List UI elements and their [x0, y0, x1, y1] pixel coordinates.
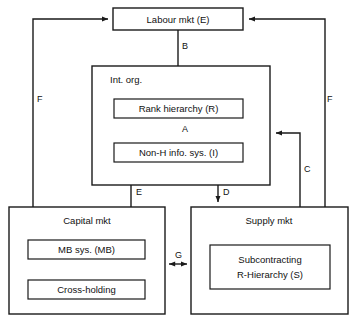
edge-label-f-right: F [327, 94, 333, 104]
subcontracting-label-line2: R-Hierarchy (S) [237, 269, 303, 280]
int-org-label: Int. org. [110, 74, 142, 85]
node-rank-hierarchy[interactable]: Rank hierarchy (R) [114, 99, 243, 118]
node-cross-holding[interactable]: Cross-holding [28, 280, 145, 299]
node-labour-mkt[interactable]: Labour mkt (E) [113, 8, 243, 30]
rank-hierarchy-label: Rank hierarchy (R) [139, 103, 219, 114]
edge-label-b: B [182, 41, 188, 51]
node-subcontracting[interactable]: Subcontracting R-Hierarchy (S) [210, 245, 330, 289]
edge-c [276, 133, 300, 207]
non-h-info-sys-label: Non-H info. sys. (I) [139, 147, 218, 158]
labour-mkt-label: Labour mkt (E) [147, 14, 210, 25]
diagram-canvas: Labour mkt (E) Int. org. Rank hierarchy … [0, 0, 358, 326]
subcontracting-box[interactable] [210, 245, 330, 289]
node-non-h-info-sys[interactable]: Non-H info. sys. (I) [114, 143, 243, 162]
block-diagram: Labour mkt (E) Int. org. Rank hierarchy … [0, 0, 358, 326]
edge-label-a: A [182, 124, 188, 134]
node-mb-sys[interactable]: MB sys. (MB) [28, 240, 145, 259]
edge-label-g: G [175, 250, 182, 260]
edge-label-c: C [304, 164, 311, 174]
subcontracting-label-line1: Subcontracting [238, 254, 301, 265]
edge-label-f-left: F [37, 94, 43, 104]
cross-holding-label: Cross-holding [57, 284, 116, 295]
node-int-org[interactable]: Int. org. [92, 66, 270, 185]
edge-label-d: D [223, 187, 230, 197]
capital-mkt-label: Capital mkt [63, 215, 111, 226]
edge-label-e: E [136, 187, 142, 197]
mb-sys-label: MB sys. (MB) [58, 244, 115, 255]
supply-mkt-label: Supply mkt [246, 215, 293, 226]
